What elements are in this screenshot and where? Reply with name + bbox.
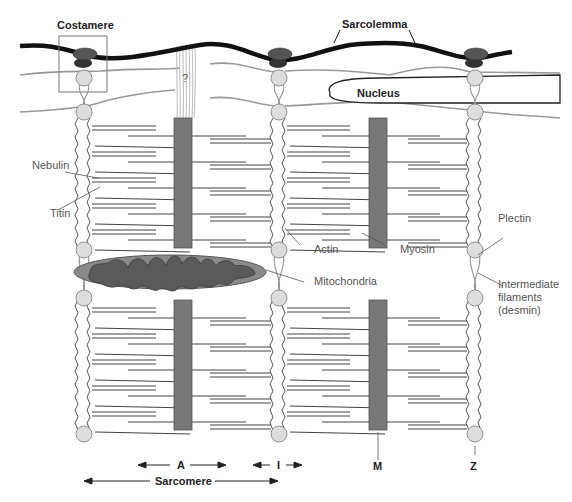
z-disk-zigzag	[75, 300, 78, 430]
plectin-ball	[76, 70, 92, 86]
unknown-label: ?	[182, 72, 188, 84]
leader-lines	[58, 172, 503, 460]
plectin-ball	[467, 290, 483, 306]
plectin-ball	[467, 242, 483, 258]
intermediate-filaments-label-1: Intermediate	[498, 278, 559, 290]
titin-filament	[290, 432, 385, 434]
band-a-label: A	[177, 459, 185, 471]
titin-label: Titin	[50, 207, 70, 219]
actin-label: Actin	[314, 243, 338, 255]
z-disk-zigzag	[466, 300, 469, 430]
plectin-ball	[76, 426, 92, 442]
plectin-ball	[271, 104, 287, 120]
plectin-ball	[76, 104, 92, 120]
nucleus-label: Nucleus	[357, 87, 400, 99]
costamere-label: Costamere	[57, 19, 114, 31]
titin-filament	[95, 432, 190, 434]
sarcolemma-pointer	[334, 30, 340, 43]
costamere-cap	[268, 48, 292, 60]
z-disk-zigzag	[282, 118, 285, 248]
sarcolemma-label: Sarcolemma	[342, 18, 408, 30]
plectin-ball	[467, 104, 483, 120]
z-disk-zigzag	[466, 118, 469, 248]
sarcomere-diagram: Nucleus ? Sarcolemma Costamere Nebulin T…	[0, 0, 572, 502]
z-disk-zigzag	[478, 300, 481, 430]
titin-filament	[95, 250, 190, 252]
plectin-ball	[467, 70, 483, 86]
plectin-ball	[76, 242, 92, 258]
plectin-label: Plectin	[498, 212, 531, 224]
plectin-ball	[76, 290, 92, 306]
z-disk-zigzag	[87, 300, 90, 430]
sarcomere-label: Sarcomere	[155, 475, 212, 487]
myosin-thick-filament	[369, 300, 387, 430]
mitochondria-label: Mitochondria	[314, 275, 378, 287]
myosin-thick-filament	[174, 118, 192, 248]
myosin-thick-filament	[369, 118, 387, 248]
z-disk-zigzag	[270, 300, 273, 430]
line-z-label: Z	[470, 460, 477, 472]
band-i-label: I	[277, 459, 280, 471]
line-m-label: M	[373, 460, 382, 472]
myosin-thick-filament	[174, 300, 192, 430]
costamere-cap	[73, 48, 97, 60]
nebulin-label: Nebulin	[32, 159, 69, 171]
plectin-ball	[271, 290, 287, 306]
myosin-label: Myosin	[400, 243, 435, 255]
plectin-ball	[467, 426, 483, 442]
costamere-cap	[464, 48, 488, 60]
plectin-ball	[271, 426, 287, 442]
z-disk-zigzag	[478, 118, 481, 248]
sarcolemma-pointer-2	[409, 30, 415, 43]
z-disk-zigzag	[87, 118, 90, 248]
z-disk-zigzag	[75, 118, 78, 248]
plectin-ball	[271, 70, 287, 86]
intermediate-filaments-label-2: filaments	[498, 291, 543, 303]
intermediate-filaments-label-3: (desmin)	[498, 304, 541, 316]
plectin-ball	[271, 242, 287, 258]
z-disk-zigzag	[270, 118, 273, 248]
z-disk-zigzag	[282, 300, 285, 430]
